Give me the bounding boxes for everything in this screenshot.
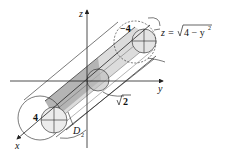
x-axis-label: x <box>14 140 20 151</box>
region-D2-label: D 2 <box>68 112 84 138</box>
sqrt2-label: 2 <box>117 95 131 107</box>
diagram-svg: z y x −4 4 z = 4 − y 2 2 D 2 <box>0 0 227 162</box>
svg-text:2: 2 <box>81 132 84 138</box>
svg-text:2: 2 <box>208 25 211 31</box>
surface-equation: z = 4 − y 2 <box>154 25 212 38</box>
cylinder-diagram: z y x −4 4 z = 4 − y 2 2 D 2 <box>0 0 227 162</box>
z-axis-label: z <box>78 8 83 19</box>
y-axis-label: y <box>157 83 163 94</box>
svg-text:D: D <box>72 125 81 136</box>
radius-front-label: 4 <box>33 112 38 123</box>
svg-text:z =: z = <box>160 27 174 38</box>
svg-text:4 − y: 4 − y <box>184 27 205 38</box>
radius-back-label: −4 <box>120 23 131 34</box>
svg-text:2: 2 <box>123 96 128 107</box>
